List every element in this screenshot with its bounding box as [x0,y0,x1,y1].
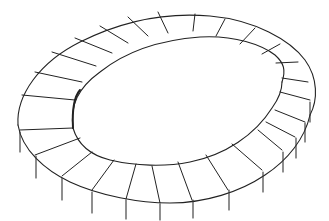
roof-rib [35,138,80,155]
roof-rib [52,52,96,66]
roof-rib [126,164,136,199]
roof-rib [216,19,225,36]
roof-rib [100,26,128,43]
stadium-roof-drawing [0,0,329,221]
roof-rib [178,162,192,200]
roof-rib [276,62,298,63]
roof-rib [282,78,308,82]
roof-rib [232,144,262,170]
roof-rib [275,110,305,122]
roof-rib [266,122,295,137]
roof-rib [152,166,160,203]
roof-rib [193,14,195,31]
roof-rib [62,152,92,176]
inner-roof-wall [73,90,80,128]
roof-rib [258,130,282,150]
inner-roof-edge-bottom [73,82,282,165]
roof-rib [280,92,310,100]
support-columns [20,102,310,220]
roof-outline-group [18,15,316,203]
roof-rib [35,72,82,82]
outer-roof-edge [18,15,316,125]
inner-roof-edge-top [72,37,284,128]
roof-rib [20,128,73,130]
roof-rib [158,12,168,33]
roof-rib [92,160,114,190]
roof-rib [75,38,112,53]
roof-rib [22,95,75,100]
stadium-roof-svg [0,0,329,221]
roof-rib [206,155,228,190]
